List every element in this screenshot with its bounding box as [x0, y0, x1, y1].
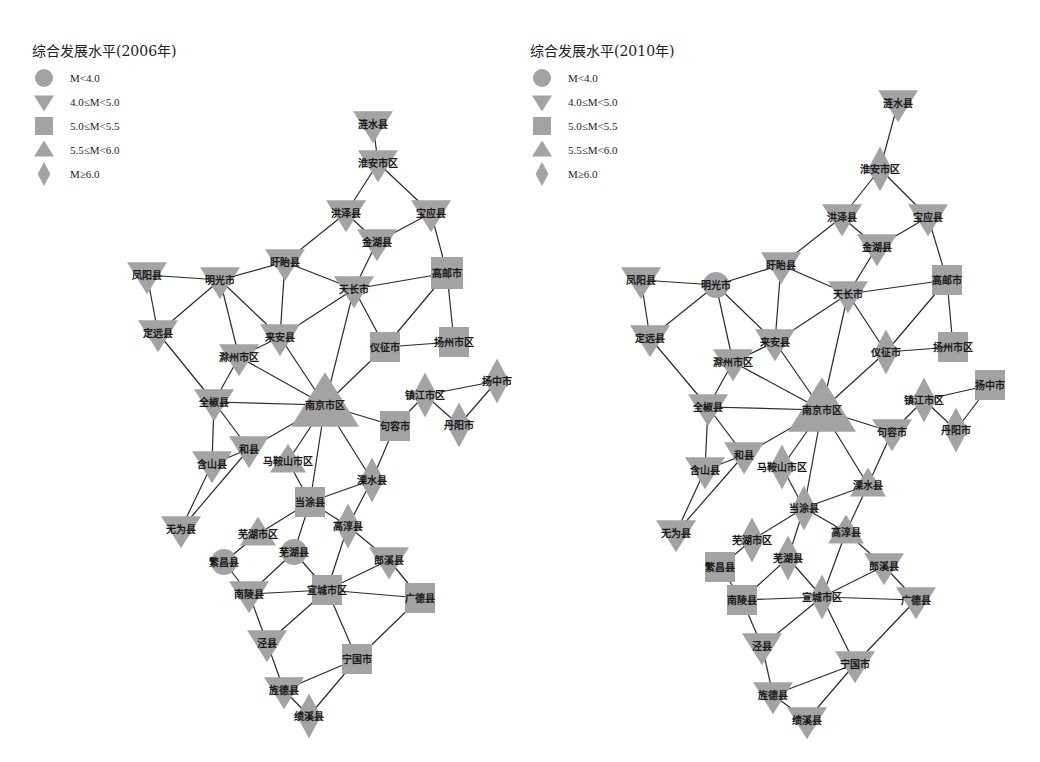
legend-label: M<4.0 — [568, 72, 598, 84]
node-label: 金湖县 — [861, 241, 892, 253]
node-label: 高淳县 — [831, 526, 861, 538]
circle-icon — [35, 69, 53, 87]
node-label: 和县 — [733, 449, 754, 461]
triangle-up-icon — [32, 139, 54, 161]
node-label: 天长市 — [339, 283, 369, 295]
legend-label: 4.0≤M<5.0 — [70, 96, 120, 108]
triangle-down-icon — [32, 91, 54, 113]
node-label: 南陵县 — [727, 594, 757, 606]
triangle-up-icon — [34, 140, 54, 156]
node-label: 当涂县 — [789, 502, 819, 514]
node-label: 芜湖市区 — [732, 534, 772, 546]
node-label: 绩溪县 — [294, 710, 324, 722]
legend-label: 5.0≤M<5.5 — [70, 120, 120, 132]
node-label: 扬中市 — [482, 375, 512, 387]
triangle-down-icon — [530, 91, 552, 113]
triangle-up-icon — [532, 140, 552, 156]
node-label: 句容市 — [380, 420, 410, 432]
node-label: 扬州市区 — [933, 341, 973, 353]
triangle-up-icon — [530, 139, 552, 161]
legend-items: M<4.04.0≤M<5.05.0≤M<5.55.5≤M<6.0M≥6.0 — [530, 66, 675, 186]
node-label: 宣城市区 — [307, 584, 347, 596]
node-label: 来安县 — [759, 336, 790, 348]
diamond-icon — [536, 162, 549, 186]
node-label: 定远县 — [143, 327, 173, 339]
node-label: 全椒县 — [692, 401, 723, 413]
node-label: 镇江市区 — [405, 389, 445, 401]
node-label: 盱眙县 — [270, 256, 300, 268]
square-icon — [533, 117, 551, 135]
node-label: 旌德县 — [758, 689, 788, 701]
node-label: 全椒县 — [198, 396, 229, 408]
legend-label: 5.5≤M<6.0 — [70, 144, 120, 156]
legend-item-square: 5.0≤M<5.5 — [32, 114, 177, 138]
node-label: 高邮市 — [432, 267, 462, 279]
node-label: 宝应县 — [416, 207, 446, 219]
node-label: 来安县 — [264, 331, 295, 343]
node-label: 天长市 — [833, 288, 863, 300]
triangle-down-icon — [34, 96, 54, 112]
legend-2010: 综合发展水平(2010年) M<4.04.0≤M<5.05.0≤M<5.55.5… — [530, 40, 675, 186]
node-label: 洪泽县 — [827, 211, 857, 223]
node-label: 宝应县 — [913, 211, 943, 223]
node-label: 广德县 — [405, 592, 435, 604]
node-label: 含山县 — [690, 464, 720, 476]
node-label: 涟水县 — [883, 97, 913, 109]
node-label: 镇江市区 — [904, 394, 944, 406]
node-label: 无为县 — [660, 527, 691, 539]
node-label: 句容市 — [877, 426, 907, 438]
diamond-icon — [38, 162, 51, 186]
node-label: 芜湖市区 — [238, 528, 278, 540]
node-label: 扬中市 — [975, 379, 1005, 391]
node-label: 溧水县 — [853, 479, 883, 491]
node-label: 和县 — [238, 443, 259, 455]
node-label: 南京市区 — [305, 399, 345, 411]
node-label: 当涂县 — [295, 496, 325, 508]
legend-label: 4.0≤M<5.0 — [568, 96, 618, 108]
node-label: 绩溪县 — [792, 714, 822, 726]
node-label: 洪泽县 — [331, 207, 361, 219]
legend-item-triangle-down: 4.0≤M<5.0 — [530, 90, 675, 114]
node-label: 仪征市 — [870, 346, 901, 358]
node-label: 无为县 — [165, 523, 196, 535]
diamond-icon — [530, 163, 552, 185]
node-label: 郎溪县 — [374, 554, 404, 566]
node-label: 仪征市 — [369, 341, 400, 353]
node-label: 高邮市 — [932, 274, 962, 286]
node-label: 繁昌县 — [208, 556, 239, 568]
node-label: 泾县 — [752, 640, 772, 652]
legend-item-diamond: M≥6.0 — [530, 162, 675, 186]
circle-icon — [32, 67, 54, 89]
edges-layer — [147, 103, 990, 720]
node-label: 淮安市区 — [358, 157, 398, 169]
legend-item-square: 5.0≤M<5.5 — [530, 114, 675, 138]
legend-2006: 综合发展水平(2006年) M<4.04.0≤M<5.05.0≤M<5.55.5… — [32, 40, 177, 186]
legend-items: M<4.04.0≤M<5.05.0≤M<5.55.5≤M<6.0M≥6.0 — [32, 66, 177, 186]
node-label: 盱眙县 — [766, 259, 796, 271]
node-label: 滁州市区 — [219, 351, 259, 363]
legend-item-diamond: M≥6.0 — [32, 162, 177, 186]
node-label: 马鞍山市区 — [263, 455, 313, 467]
node-label: 明光市 — [701, 279, 731, 291]
node-label: 郎溪县 — [869, 560, 899, 572]
legend-label: M≥6.0 — [568, 168, 598, 180]
node-label: 芜湖县 — [279, 546, 309, 558]
node-label: 涟水县 — [358, 118, 388, 130]
node-label: 繁昌县 — [704, 561, 735, 573]
node-label: 含山县 — [197, 458, 227, 470]
node-label: 泾县 — [257, 637, 277, 649]
node-label: 宁国市 — [342, 653, 372, 665]
node-label: 凤阳县 — [626, 275, 656, 286]
legend-label: M≥6.0 — [70, 168, 100, 180]
legend-item-triangle-up: 5.5≤M<6.0 — [530, 138, 675, 162]
legend-item-circle: M<4.0 — [32, 66, 177, 90]
legend-item-circle: M<4.0 — [530, 66, 675, 90]
circle-icon — [530, 67, 552, 89]
triangle-down-icon — [532, 96, 552, 112]
circle-icon — [533, 69, 551, 87]
square-icon — [32, 115, 54, 137]
legend-title: 综合发展水平(2006年) — [32, 40, 177, 60]
legend-title: 综合发展水平(2010年) — [530, 40, 675, 60]
legend-item-triangle-up: 5.5≤M<6.0 — [32, 138, 177, 162]
node-label: 丹阳市 — [444, 419, 474, 431]
